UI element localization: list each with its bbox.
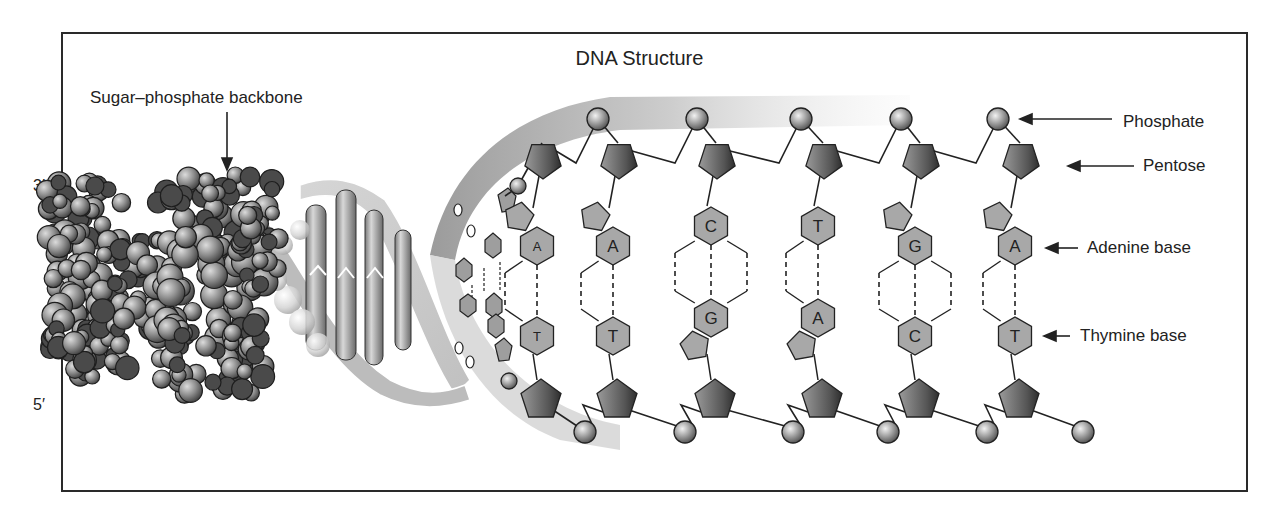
phosphate-icon [587,108,609,130]
base-letter: C [909,327,921,346]
phosphate-icon [674,421,696,443]
base-pair-ladder: ATATCGTAGCAT [501,108,1094,443]
pentose-sugar-icon [525,145,561,179]
phosphate-icon [501,373,517,389]
base-letter: T [813,217,823,236]
pentose-sugar-icon [999,379,1039,417]
arrow-adenine [1046,243,1078,253]
base-pair-2: AT [581,145,637,417]
arrow-thymine [1044,331,1070,341]
arrow-phosphate [1020,114,1112,124]
space-filling-model [37,167,289,403]
phosphate-icon [1072,421,1094,443]
pentose-sugar-icon [699,145,735,179]
base-letter: A [1009,237,1021,256]
pentose-sugar-icon [806,145,842,179]
phosphate-icon [890,108,912,130]
pentose-sugar-icon [601,145,637,179]
base-letter: G [908,237,921,256]
base-letter: A [607,237,619,256]
base-letter: T [1010,327,1020,346]
base-pair-5: GC [879,145,951,417]
base-letter: G [704,309,717,328]
phosphate-icon [782,421,804,443]
pentose-sugar-icon [903,145,939,179]
base-pair-6: AT [983,145,1039,417]
backbone-ribbon-mid [250,180,470,407]
phosphate-icon [987,108,1009,130]
pentose-sugar-icon [1003,145,1039,179]
pentose-sugar-icon [597,379,637,417]
dna-diagram: ATATCGTAGCAT [0,0,1279,524]
phosphate-icon [686,108,708,130]
base-letter: A [533,239,542,254]
base-pair-4: TA [786,145,842,417]
base-letter: T [533,329,541,344]
base-letter: T [608,327,618,346]
base-letter: C [705,217,717,236]
pentose-sugar-icon [899,379,939,417]
pentose-sugar-icon [802,379,842,417]
arrow-pentose [1068,161,1134,171]
phosphate-icon [790,108,812,130]
phosphate-icon [574,421,596,443]
phosphate-icon [510,178,526,194]
base-letter: A [812,309,824,328]
pentose-sugar-icon [695,379,735,417]
arrow-backbone [222,112,232,170]
phosphate-icon [976,421,998,443]
base-pair-3: CG [675,145,747,417]
phosphate-icon [877,421,899,443]
